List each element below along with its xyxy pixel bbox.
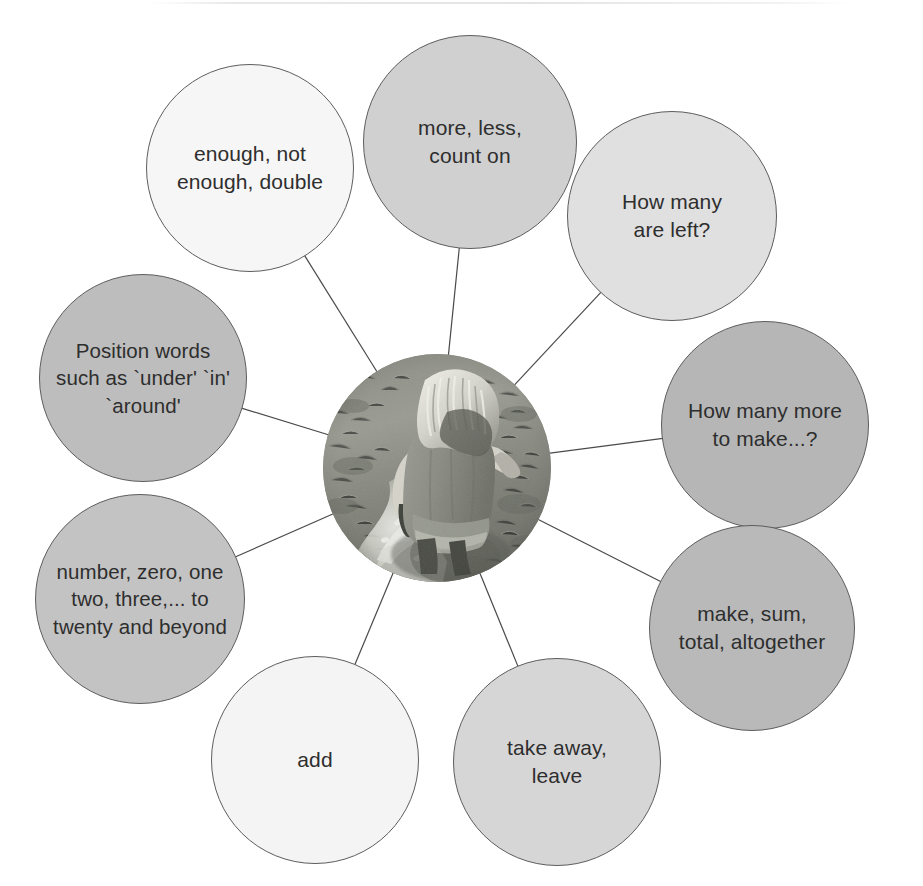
- connector-how-many-more: [548, 438, 663, 453]
- bubble-label: add: [297, 746, 332, 774]
- bubble-label: Position words such as `under' `in' `aro…: [56, 337, 230, 419]
- connector-enough: [304, 255, 377, 373]
- connector-add: [355, 571, 394, 665]
- connector-take-away: [479, 572, 518, 667]
- bubble-enough-not-enough-double[interactable]: enough, not enough, double: [146, 64, 354, 272]
- connector-make-sum: [537, 519, 661, 582]
- connector-number-zero: [235, 513, 334, 557]
- bubble-label: How many more to make...?: [688, 397, 842, 453]
- bubble-number-zero-one-two-three[interactable]: number, zero, one two, three,... to twen…: [35, 494, 245, 704]
- bubble-how-many-are-left[interactable]: How many are left?: [567, 111, 777, 321]
- child-splashing-in-puddle-photo: [323, 354, 551, 582]
- bubble-take-away-leave[interactable]: take away, leave: [453, 658, 661, 866]
- bubble-how-many-more-to-make[interactable]: How many more to make...?: [661, 321, 869, 529]
- bubble-more-less-count-on[interactable]: more, less, count on: [363, 35, 577, 249]
- connector-how-many-left: [513, 292, 601, 386]
- bubble-label: enough, not enough, double: [177, 140, 323, 196]
- bubble-label: make, sum, total, altogether: [679, 600, 825, 656]
- bubble-position-words[interactable]: Position words such as `under' `in' `aro…: [39, 274, 247, 482]
- bubble-label: How many are left?: [622, 188, 722, 244]
- connector-more-less: [448, 247, 459, 356]
- mind-map-canvas: more, less, count onHow many are left?Ho…: [0, 0, 923, 886]
- connector-position-words: [241, 408, 329, 435]
- bubble-make-sum-total-altogether[interactable]: make, sum, total, altogether: [649, 525, 855, 731]
- bubble-label: take away, leave: [507, 734, 607, 790]
- bubble-add[interactable]: add: [211, 656, 419, 864]
- bubble-label: more, less, count on: [418, 114, 522, 170]
- bubble-label: number, zero, one two, three,... to twen…: [53, 558, 227, 640]
